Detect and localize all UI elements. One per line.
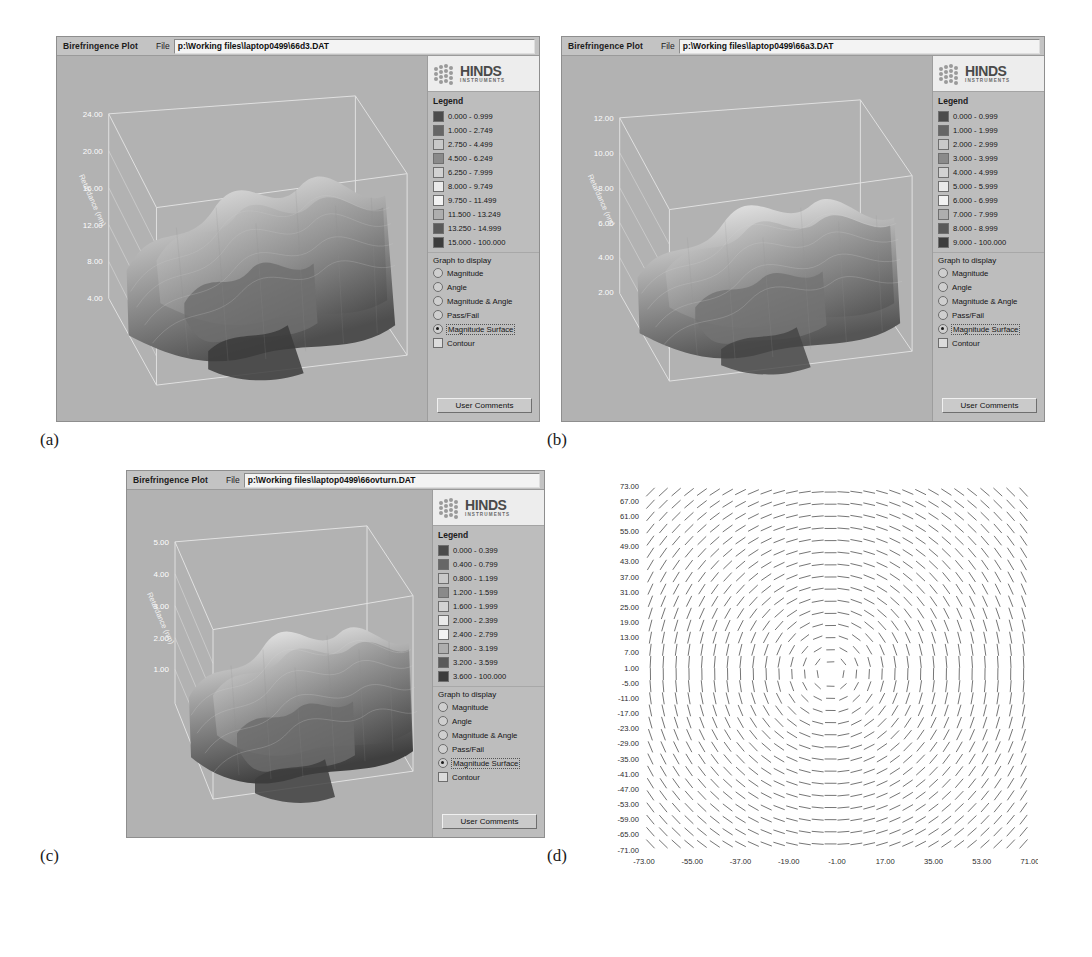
radio-angle[interactable]: Angle <box>438 714 541 728</box>
radio-icon <box>938 282 948 292</box>
radio-magnitude-angle[interactable]: Magnitude & Angle <box>438 728 541 742</box>
radio-magnitude[interactable]: Magnitude <box>938 266 1041 280</box>
radio-icon <box>438 716 448 726</box>
svg-text:12.00: 12.00 <box>594 114 614 123</box>
y-axis-tick-label: -47.00 <box>617 785 639 794</box>
checkbox-icon <box>438 772 448 782</box>
svg-text:5.00: 5.00 <box>153 538 169 547</box>
legend-item: 6.000 - 6.999 <box>938 193 1041 207</box>
legend-label: 1.000 - 2.749 <box>448 126 493 135</box>
x-axis-tick-label: -37.00 <box>730 857 752 866</box>
radio-magnitude[interactable]: Magnitude <box>438 700 541 714</box>
radio-pass-fail[interactable]: Pass/Fail <box>438 742 541 756</box>
y-axis-tick-label: 25.00 <box>620 603 639 612</box>
y-axis-tick-label: 19.00 <box>620 618 639 627</box>
hinds-logo-b: HINDS INSTRUMENTS <box>933 56 1044 92</box>
file-label: File <box>156 41 170 51</box>
legend-swatch-icon <box>433 167 444 178</box>
file-path-input[interactable]: p:\Working files\laptop0499\66ovturn.DAT <box>244 473 540 488</box>
legend-c: Legend 0.000 - 0.399 0.400 - 0.799 0.800… <box>433 526 544 687</box>
y-axis-tick-label: -41.00 <box>617 770 639 779</box>
panel-caption-b: (b) <box>547 430 567 450</box>
radio-magnitude-angle[interactable]: Magnitude & Angle <box>433 294 536 308</box>
radio-label: Magnitude & Angle <box>952 297 1017 306</box>
surface-plot-a[interactable]: 24.00 20.00 16.00 12.00 8.00 4.00 Retard… <box>57 56 427 421</box>
legend-label: 2.750 - 4.499 <box>448 140 493 149</box>
legend-item: 9.000 - 100.000 <box>938 235 1041 249</box>
legend-swatch-icon <box>938 209 949 220</box>
radio-label: Pass/Fail <box>447 311 479 320</box>
checkbox-label: Contour <box>447 339 475 348</box>
logo-name: HINDS <box>460 64 505 78</box>
radio-pass-fail[interactable]: Pass/Fail <box>938 308 1041 322</box>
user-comments-button[interactable]: User Comments <box>442 814 537 829</box>
radio-magnitude-surface[interactable]: Magnitude Surface <box>938 322 1041 336</box>
user-comments-label: User Comments <box>961 401 1019 410</box>
radio-pass-fail[interactable]: Pass/Fail <box>433 308 536 322</box>
legend-item: 0.400 - 0.799 <box>438 557 541 571</box>
radio-label: Pass/Fail <box>952 311 984 320</box>
app-title: Birefringence Plot <box>133 475 208 485</box>
radio-label: Magnitude <box>452 703 488 712</box>
legend-item: 2.800 - 3.199 <box>438 641 541 655</box>
radio-angle[interactable]: Angle <box>433 280 536 294</box>
side-panel-c: HINDS INSTRUMENTS Legend 0.000 - 0.399 0… <box>432 490 544 837</box>
y-axis-tick-label: -35.00 <box>617 755 639 764</box>
legend-label: 1.200 - 1.599 <box>453 588 498 597</box>
y-axis-tick-label: 55.00 <box>620 527 639 536</box>
y-axis-tick-label: 37.00 <box>620 573 639 582</box>
legend-swatch-icon <box>433 125 444 136</box>
surface-plot-c[interactable]: 5.00 4.00 3.00 2.00 1.00 Retardance (nm) <box>127 490 432 837</box>
vector-field-plot[interactable]: 73.0067.0061.0055.0049.0043.0037.0031.00… <box>586 478 1038 878</box>
radio-magnitude[interactable]: Magnitude <box>433 266 536 280</box>
legend-label: 7.000 - 7.999 <box>953 210 998 219</box>
radio-magnitude-surface[interactable]: Magnitude Surface <box>438 756 541 770</box>
radio-magnitude-surface[interactable]: Magnitude Surface <box>433 322 536 336</box>
legend-item: 6.250 - 7.999 <box>433 165 536 179</box>
legend-label: 13.250 - 14.999 <box>448 224 501 233</box>
radio-label: Magnitude <box>447 269 483 278</box>
legend-swatch-icon <box>438 643 449 654</box>
user-comments-button[interactable]: User Comments <box>942 398 1037 413</box>
radio-icon-selected <box>438 758 448 768</box>
legend-item: 13.250 - 14.999 <box>433 221 536 235</box>
legend-label: 3.600 - 100.000 <box>453 672 506 681</box>
panel-d: 73.0067.0061.0055.0049.0043.0037.0031.00… <box>586 478 1038 878</box>
checkbox-icon <box>938 338 948 348</box>
legend-item: 7.000 - 7.999 <box>938 207 1041 221</box>
x-axis-tick-label: -55.00 <box>681 857 703 866</box>
legend-item: 8.000 - 8.999 <box>938 221 1041 235</box>
checkbox-contour[interactable]: Contour <box>938 336 1041 350</box>
radio-magnitude-angle[interactable]: Magnitude & Angle <box>938 294 1041 308</box>
svg-text:4.00: 4.00 <box>87 294 103 303</box>
titlebar-c: Birefringence Plot File p:\Working files… <box>127 471 544 490</box>
surface-plot-b[interactable]: 12.00 10.00 8.00 6.00 4.00 2.00 Retardan… <box>562 56 932 421</box>
radio-angle[interactable]: Angle <box>938 280 1041 294</box>
legend-label: 2.000 - 2.399 <box>453 616 498 625</box>
legend-swatch-icon <box>938 181 949 192</box>
y-axis-tick-label: -53.00 <box>617 800 639 809</box>
legend-swatch-icon <box>938 237 949 248</box>
logo-subtitle: INSTRUMENTS <box>465 513 510 518</box>
graph-to-display-a: Graph to display Magnitude Angle Magnitu… <box>428 253 539 421</box>
file-label: File <box>661 41 675 51</box>
hinds-logo-c: HINDS INSTRUMENTS <box>433 490 544 526</box>
file-path-input[interactable]: p:\Working files\laptop0499\66a3.DAT <box>679 39 1040 54</box>
svg-text:4.00: 4.00 <box>153 570 169 579</box>
checkbox-contour[interactable]: Contour <box>433 336 536 350</box>
legend-label: 0.800 - 1.199 <box>453 574 498 583</box>
radio-icon <box>433 296 443 306</box>
radio-icon-selected <box>938 324 948 334</box>
legend-swatch-icon <box>438 601 449 612</box>
checkbox-icon <box>433 338 443 348</box>
legend-swatch-icon <box>938 195 949 206</box>
surface-mesh-c <box>189 627 417 803</box>
legend-item: 5.000 - 5.999 <box>938 179 1041 193</box>
radio-label: Magnitude Surface <box>447 325 514 334</box>
panel-b: Birefringence Plot File p:\Working files… <box>561 36 1045 422</box>
file-path-input[interactable]: p:\Working files\laptop0499\66d3.DAT <box>174 39 535 54</box>
legend-item: 3.600 - 100.000 <box>438 669 541 683</box>
graph-to-display-b: Graph to display Magnitude Angle Magnitu… <box>933 253 1044 421</box>
user-comments-button[interactable]: User Comments <box>437 398 532 413</box>
checkbox-contour[interactable]: Contour <box>438 770 541 784</box>
